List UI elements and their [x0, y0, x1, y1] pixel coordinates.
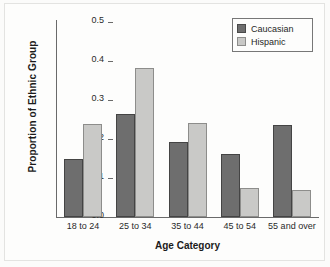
- y-axis-tick-label: 0.3: [57, 93, 104, 103]
- x-axis-tick-label: 55 and over: [260, 221, 324, 231]
- bar-caucasian-1: [116, 114, 135, 217]
- chart-figure: Proportion of Ethnic Group Age Category …: [0, 0, 330, 267]
- legend-item: Hispanic: [237, 35, 308, 48]
- legend-item-label: Caucasian: [251, 24, 294, 34]
- y-axis-tick-mark: [108, 61, 113, 62]
- y-axis-tick-mark: [108, 100, 113, 101]
- bar-caucasian-3: [221, 154, 240, 217]
- legend-item-label: Hispanic: [251, 37, 286, 47]
- legend-item: Caucasian: [237, 22, 308, 35]
- bar-caucasian-2: [169, 142, 188, 217]
- y-axis-title: Proportion of Ethnic Group: [27, 12, 38, 202]
- y-axis-tick-label: 0.4: [57, 54, 104, 64]
- y-axis-tick-mark: [108, 178, 113, 179]
- bar-hispanic-0: [83, 124, 102, 217]
- chart-legend: CaucasianHispanic: [232, 18, 313, 52]
- x-axis-title: Age Category: [57, 240, 318, 251]
- bar-hispanic-3: [240, 188, 259, 217]
- legend-swatch-icon: [237, 24, 246, 33]
- legend-swatch-icon: [237, 37, 246, 46]
- y-axis-tick-mark: [108, 139, 113, 140]
- bar-hispanic-1: [135, 68, 154, 217]
- y-axis-tick-label: 0.5: [57, 15, 104, 25]
- y-axis-tick-mark: [108, 217, 113, 218]
- bar-hispanic-2: [188, 123, 207, 217]
- bar-hispanic-4: [292, 190, 311, 217]
- bar-caucasian-0: [64, 159, 83, 218]
- bar-caucasian-4: [273, 125, 292, 217]
- y-axis-tick-mark: [108, 22, 113, 23]
